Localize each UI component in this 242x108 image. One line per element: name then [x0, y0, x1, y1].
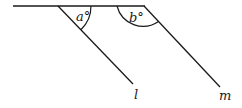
line-m	[144, 6, 220, 87]
line-l-label: l	[134, 87, 138, 102]
angle-b-label: b°	[129, 10, 144, 25]
angle-a-label: a°	[76, 9, 90, 24]
line-l	[58, 6, 133, 84]
angle-diagram: a° b° l m	[0, 0, 242, 108]
line-m-label: m	[219, 88, 231, 103]
